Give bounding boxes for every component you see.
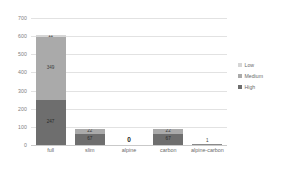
y-axis-tick-600: 600 — [18, 33, 27, 39]
plot-area: 700 600 500 400 300 200 100 0 11 — [31, 18, 227, 145]
legend-label-medium: Medium — [245, 73, 263, 79]
legend-swatch-high-icon — [238, 85, 242, 89]
bar-segment-medium: 349 — [36, 37, 66, 100]
x-axis-line: 0 — [31, 145, 227, 146]
y-axis-tick-500: 500 — [18, 51, 27, 57]
legend-item-medium[interactable]: Medium — [238, 73, 282, 79]
legend-swatch-low-icon — [238, 63, 242, 67]
legend: Low Medium High — [238, 62, 282, 95]
bar-stack-full: 11 349 247 — [36, 35, 66, 145]
bar-segment-high — [192, 144, 222, 146]
bar-column-slim[interactable]: 22 67 — [75, 18, 105, 145]
bar-segment-high: 67 — [153, 134, 183, 145]
legend-item-low[interactable]: Low — [238, 62, 282, 68]
legend-label-low: Low — [245, 62, 255, 68]
x-axis-label-alpine-carbon: alpine-carbon — [188, 147, 227, 153]
x-axis-labels: full slim alpine carbon alpine-carbon — [31, 147, 227, 153]
bar-column-alpine[interactable]: 0 — [114, 18, 144, 145]
bar-stack-alpine: 0 — [114, 136, 144, 145]
bar-segment-high: 67 — [75, 134, 105, 145]
x-axis-label-slim: slim — [70, 147, 109, 153]
bar-stack-alpine-carbon — [192, 144, 222, 146]
bar-stack-slim: 22 67 — [75, 129, 105, 145]
y-axis-tick-400: 400 — [18, 69, 27, 75]
bar-column-full[interactable]: 11 349 247 — [36, 18, 66, 145]
x-axis-label-alpine: alpine — [109, 147, 148, 153]
bar-value-label: 1 — [206, 138, 209, 143]
bar-value-zero: 0 — [114, 136, 144, 145]
legend-item-high[interactable]: High — [238, 84, 282, 90]
y-axis-tick-300: 300 — [18, 88, 27, 94]
bar-column-alpine-carbon[interactable]: 1 — [192, 18, 222, 145]
x-axis-label-full: full — [31, 147, 70, 153]
bar-group: 11 349 247 22 67 0 2 — [31, 18, 227, 145]
y-axis-tick-100: 100 — [18, 124, 27, 130]
stacked-bar-chart: 700 600 500 400 300 200 100 0 11 — [0, 0, 284, 178]
legend-swatch-medium-icon — [238, 74, 242, 78]
legend-label-high: High — [245, 84, 256, 90]
x-axis-label-carbon: carbon — [149, 147, 188, 153]
bar-column-carbon[interactable]: 22 67 — [153, 18, 183, 145]
bar-stack-carbon: 22 67 — [153, 129, 183, 145]
y-axis-tick-700: 700 — [18, 15, 27, 21]
y-axis-tick-200: 200 — [18, 106, 27, 112]
y-axis-tick-0: 0 — [24, 142, 27, 148]
bar-segment-high: 247 — [36, 100, 66, 145]
